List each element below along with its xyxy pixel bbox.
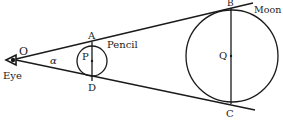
upper-sight-line xyxy=(16,3,253,59)
moon-center-dot xyxy=(230,55,232,57)
eye-icon xyxy=(6,55,16,65)
label-b: B xyxy=(227,0,234,8)
pencil-center-dot xyxy=(91,60,93,62)
angle-subtended-diagram: O Eye α A P D Pencil B Q C Moon xyxy=(0,0,283,122)
label-eye: Eye xyxy=(3,70,22,81)
lower-sight-line xyxy=(16,60,255,110)
label-moon: Moon xyxy=(254,4,281,15)
diagram-canvas: O Eye α A P D Pencil B Q C Moon xyxy=(0,0,283,122)
label-pencil: Pencil xyxy=(107,39,138,50)
label-p: P xyxy=(82,51,89,62)
label-c: C xyxy=(226,108,234,119)
label-q: Q xyxy=(219,50,227,61)
label-o: O xyxy=(19,45,28,58)
label-d: D xyxy=(88,82,96,93)
label-a: A xyxy=(87,30,96,41)
label-alpha: α xyxy=(50,55,57,66)
